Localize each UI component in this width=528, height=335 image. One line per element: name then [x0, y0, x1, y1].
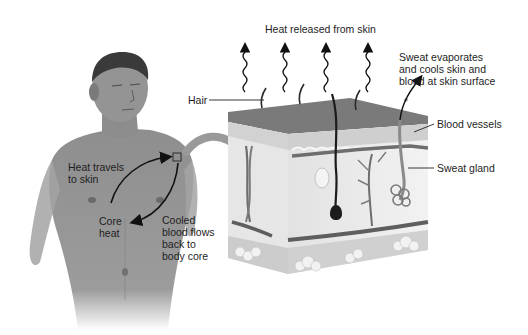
sweat-gland-label: Sweat gland [437, 162, 495, 174]
heat-waves [243, 46, 370, 92]
heat-wave-3 [324, 46, 328, 92]
heat-wave-2 [283, 46, 287, 92]
cooled-blood-label: Cooled blood flows back to body core [162, 214, 215, 262]
skin-cross-section [228, 84, 428, 274]
heat-regulation-diagram: Heat released from skin Sweat evaporates… [0, 0, 528, 335]
sweat-evaporates-label: Sweat evaporates and cools skin and bloo… [399, 51, 495, 87]
ear [89, 83, 99, 101]
hair-label: Hair [188, 94, 207, 106]
core-heat-label: Core heat [99, 215, 122, 239]
heat-wave-1 [243, 46, 247, 92]
heat-wave-4 [366, 46, 370, 92]
blood-vessels-label: Blood vessels [437, 118, 502, 130]
sebaceous-gland [315, 168, 329, 188]
human-figure [30, 52, 198, 330]
heat-released-label: Heat released from skin [265, 23, 376, 35]
heat-travels-label: Heat travels to skin [68, 161, 124, 185]
